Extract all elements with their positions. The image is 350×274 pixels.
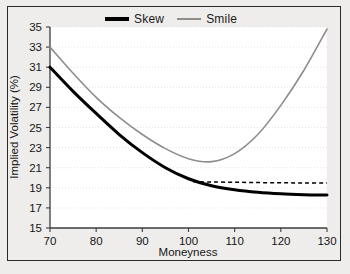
x-tick-label: 110: [225, 235, 243, 247]
x-axis-ticks: 708090100110120130: [44, 228, 337, 247]
y-tick-label: 19: [29, 182, 42, 194]
y-tick-label: 21: [29, 162, 42, 174]
chart-figure: Skew Smile 1517192123252729313335 708090…: [0, 0, 350, 274]
x-tick-label: 90: [136, 235, 149, 247]
x-tick-label: 130: [317, 235, 336, 247]
x-tick-label: 70: [44, 235, 57, 247]
y-tick-label: 25: [29, 122, 42, 134]
x-tick-label: 120: [271, 235, 290, 247]
y-axis-ticks: 1517192123252729313335: [29, 21, 50, 234]
x-axis-title: Moneyness: [159, 246, 218, 258]
y-tick-label: 15: [29, 222, 42, 234]
y-axis-title: Implied Volatility (%): [8, 75, 20, 179]
y-tick-label: 29: [29, 81, 42, 93]
y-tick-label: 17: [29, 202, 42, 214]
x-tick-label: 80: [90, 235, 103, 247]
y-tick-label: 35: [29, 21, 42, 33]
y-tick-label: 31: [29, 61, 42, 73]
chart-plot: 1517192123252729313335 70809010011012013…: [0, 0, 350, 274]
y-tick-label: 33: [29, 41, 42, 53]
y-tick-label: 27: [29, 101, 42, 113]
y-tick-label: 23: [29, 142, 42, 154]
